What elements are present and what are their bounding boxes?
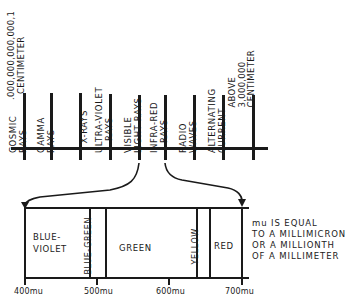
segment-divider-2 [105, 207, 107, 279]
segment-blue-violet: BLUE- VIOLET [33, 231, 67, 255]
segment-blue-green: BLUE-GREEN [84, 217, 94, 275]
note-line: OR A MILLIONTH [252, 240, 346, 251]
tick-label-500: 500mu [84, 287, 113, 296]
note-line: TO A MILLIMICRON [252, 229, 346, 240]
unit-note: mu IS EQUAL TO A MILLIMICRON OR A MILLIO… [252, 218, 346, 262]
note-line: mu IS EQUAL [252, 218, 346, 229]
segment-divider-4 [209, 207, 211, 279]
note-line: OF A MILLIMETER [252, 251, 346, 262]
segment-yellow: YELLOW [191, 228, 201, 264]
tick-600 [168, 279, 170, 285]
tick-500 [96, 279, 98, 285]
box-bottom-border [24, 277, 249, 279]
segment-red: RED [214, 240, 234, 252]
tick-label-700: 700mu [225, 287, 254, 296]
tick-label-600: 600mu [156, 287, 185, 296]
box-right-border [241, 207, 243, 285]
tick-label-400: 400mu [14, 287, 43, 296]
arrow-head-right-icon [238, 199, 246, 207]
box-top-border [24, 207, 249, 209]
box-left-border [24, 207, 26, 285]
segment-green: GREEN [119, 242, 152, 254]
